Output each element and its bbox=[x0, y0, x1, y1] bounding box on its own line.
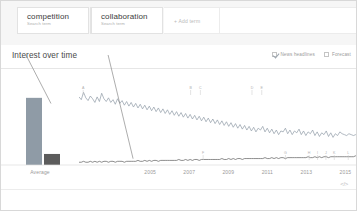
search-term-card-collaboration[interactable]: collaboration Search term bbox=[91, 7, 163, 34]
chart-toggles: News headlines Forecast bbox=[272, 52, 351, 57]
news-marker-label[interactable]: F bbox=[202, 151, 205, 155]
news-marker-label[interactable]: K bbox=[333, 151, 336, 155]
news-marker-label[interactable]: H bbox=[308, 151, 311, 155]
x-axis-tick-label: 2007 bbox=[183, 169, 195, 175]
news-marker-label[interactable]: D bbox=[251, 86, 254, 90]
x-axis-tick-label: 2011 bbox=[262, 169, 273, 175]
term-bar-spacer bbox=[220, 7, 357, 34]
news-marker-label[interactable]: I bbox=[317, 151, 318, 155]
toggle-label: Forecast bbox=[332, 52, 351, 57]
news-marker-label[interactable]: E bbox=[261, 86, 264, 90]
chart-area: Average ABCDEFGHIJKL 2005200720092011201… bbox=[1, 69, 357, 189]
toggle-label: News headlines bbox=[280, 52, 315, 57]
series-line[interactable] bbox=[79, 92, 357, 137]
news-marker-label[interactable]: A bbox=[82, 86, 85, 90]
search-term-title: collaboration bbox=[101, 12, 152, 21]
news-marker-label[interactable]: L bbox=[347, 151, 349, 155]
x-axis-tick-label: 2013 bbox=[301, 169, 313, 175]
checkbox-icon[interactable] bbox=[324, 52, 329, 57]
search-terms-bar: competition Search term collaboration Se… bbox=[1, 1, 357, 45]
average-bars-svg bbox=[1, 69, 79, 169]
search-term-subtitle: Search term bbox=[101, 21, 152, 27]
search-term-subtitle: Search term bbox=[27, 21, 78, 27]
news-marker-label[interactable]: B bbox=[189, 86, 192, 90]
toggle-news-headlines[interactable]: News headlines bbox=[272, 52, 315, 57]
x-axis: 200520072009201120132015 bbox=[79, 169, 357, 183]
news-marker-label[interactable]: J bbox=[325, 151, 327, 155]
x-axis-tick-label: 2015 bbox=[340, 169, 352, 175]
footer: </> bbox=[1, 189, 357, 210]
x-axis-tick-label: 2005 bbox=[144, 169, 156, 175]
average-bar[interactable] bbox=[26, 98, 42, 165]
x-axis-tick-label: 2009 bbox=[222, 169, 234, 175]
news-marker-label[interactable]: C bbox=[199, 86, 202, 90]
page-title: Interest over time bbox=[12, 51, 77, 60]
interest-over-time-header: Interest over time News headlines Foreca… bbox=[1, 45, 357, 69]
average-axis-label: Average bbox=[1, 169, 79, 175]
series-line[interactable] bbox=[79, 156, 357, 162]
average-bar[interactable] bbox=[44, 154, 60, 165]
timeline-svg[interactable]: ABCDEFGHIJKL bbox=[79, 69, 357, 169]
add-term-button[interactable]: + Add term bbox=[164, 7, 220, 34]
news-marker-label[interactable]: G bbox=[284, 151, 287, 155]
average-bar-chart: Average bbox=[1, 69, 79, 189]
embed-code-icon[interactable]: </> bbox=[340, 181, 348, 187]
search-term-title: competition bbox=[27, 12, 78, 21]
checkbox-icon[interactable] bbox=[272, 52, 277, 57]
google-trends-panel: competition Search term collaboration Se… bbox=[0, 0, 357, 211]
search-term-card-competition[interactable]: competition Search term bbox=[17, 7, 89, 34]
toggle-forecast[interactable]: Forecast bbox=[324, 52, 351, 57]
